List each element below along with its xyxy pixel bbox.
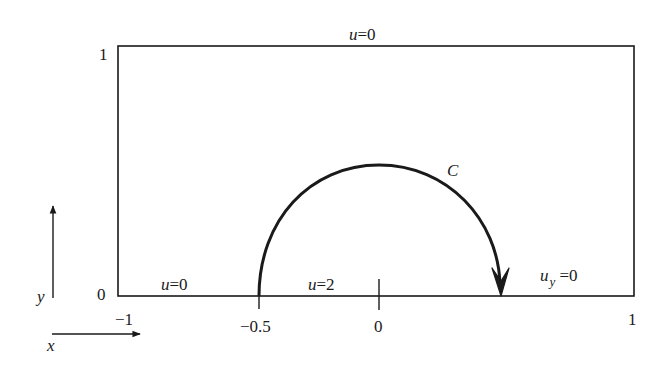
- bc-top-var: u: [349, 25, 358, 44]
- bc-top-label: u=0: [349, 26, 376, 43]
- y-axis-label: y: [37, 288, 45, 305]
- contour-c-curve: [259, 165, 500, 296]
- bc-bottom-right-var: u: [540, 266, 549, 285]
- bc-bottom-left-eq: =0: [170, 275, 188, 294]
- tick-label-x-minus-half: −0.5: [240, 318, 271, 335]
- bc-top-eq: =0: [358, 25, 376, 44]
- tick-label-y-0: 0: [97, 286, 106, 303]
- domain-rectangle: [118, 46, 634, 296]
- bc-bottom-right-eq: =0: [555, 266, 577, 285]
- bc-bottom-right-sub: y: [550, 274, 556, 289]
- bc-bottom-left-var: u: [161, 275, 170, 294]
- bc-bottom-middle-var: u: [308, 275, 317, 294]
- tick-label-x-minus-1: −1: [115, 311, 133, 328]
- contour-c-label: C: [447, 162, 458, 179]
- bc-bottom-middle-eq: =2: [317, 275, 335, 294]
- tick-label-y-1: 1: [99, 46, 108, 63]
- x-axis-label: x: [47, 337, 55, 354]
- tick-label-x-1: 1: [628, 311, 637, 328]
- tick-label-x-0: 0: [374, 318, 383, 335]
- bc-bottom-left-label: u=0: [161, 276, 188, 293]
- bc-bottom-middle-label: u=2: [308, 276, 335, 293]
- bc-bottom-right-label: uy =0: [540, 267, 578, 284]
